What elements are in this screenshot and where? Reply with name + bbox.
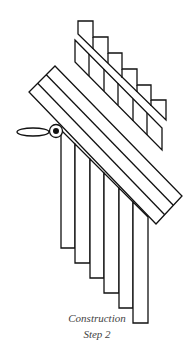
pivot-dot-icon bbox=[53, 128, 59, 134]
handle-ellipse bbox=[17, 128, 49, 136]
construction-diagram bbox=[0, 0, 196, 357]
caption-step: Step 2 bbox=[49, 326, 145, 342]
vertical-strip-1 bbox=[61, 130, 75, 248]
vertical-strip-3 bbox=[90, 159, 104, 278]
vertical-strip-5 bbox=[119, 188, 133, 308]
pivot-assembly bbox=[17, 125, 63, 138]
vertical-strip-6 bbox=[133, 202, 148, 323]
vertical-strip-4 bbox=[104, 173, 119, 293]
vertical-strip-2 bbox=[75, 144, 90, 263]
caption-title: Construction bbox=[49, 310, 145, 326]
